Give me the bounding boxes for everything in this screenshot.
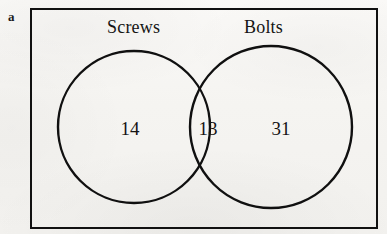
region-count-intersection: 13: [193, 119, 223, 138]
figure-canvas: a Screws Bolts 14 13 31: [0, 0, 387, 234]
venn-diagram-circles: [0, 0, 387, 234]
set-label-bolts: Bolts: [244, 18, 283, 36]
region-count-screws-only: 14: [113, 119, 147, 138]
region-count-bolts-only: 31: [264, 119, 298, 138]
set-label-screws: Screws: [107, 18, 160, 36]
